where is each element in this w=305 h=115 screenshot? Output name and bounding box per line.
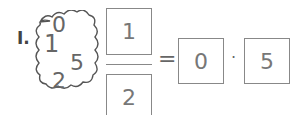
denominator-box[interactable]: 2	[106, 74, 152, 115]
equals-sign: =	[158, 48, 176, 70]
problem-label: I.	[17, 28, 30, 48]
cloud-digit: 1	[44, 32, 59, 56]
decimal-tenths-box[interactable]: 5	[244, 38, 290, 84]
decimal-whole-box[interactable]: 0	[178, 38, 224, 84]
decimal-point: ·	[231, 50, 236, 66]
cloud-digit: 5	[70, 52, 84, 74]
numerator-box[interactable]: 1	[106, 8, 152, 55]
cloud-digit: 2	[52, 70, 66, 92]
fraction-bar	[106, 64, 152, 65]
